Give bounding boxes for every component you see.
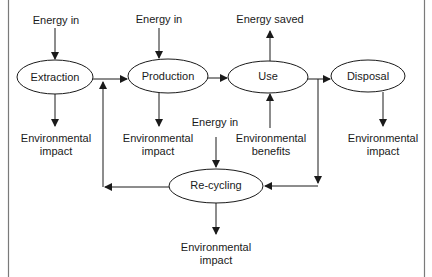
label-energy-in-recycling: Energy in xyxy=(192,116,238,129)
node-label-use: Use xyxy=(258,70,278,82)
label-env-impact-production: Environmental impact xyxy=(123,132,193,158)
label-env-impact-recycling: Environmental impact xyxy=(181,241,251,267)
label-env-impact-extraction: Environmental impact xyxy=(21,132,91,158)
node-label-extraction: Extraction xyxy=(31,71,80,83)
label-env-benefits-use: Environmental benefits xyxy=(236,132,306,158)
label-energy-saved: Energy saved xyxy=(236,13,303,26)
label-energy-in-production: Energy in xyxy=(136,13,182,26)
node-label-production: Production xyxy=(142,70,195,82)
label-env-impact-disposal: Environmental impact xyxy=(348,132,418,158)
label-energy-in-extraction: Energy in xyxy=(33,14,79,27)
node-label-recycling: Re-cycling xyxy=(190,179,241,191)
node-label-disposal: Disposal xyxy=(347,70,389,82)
